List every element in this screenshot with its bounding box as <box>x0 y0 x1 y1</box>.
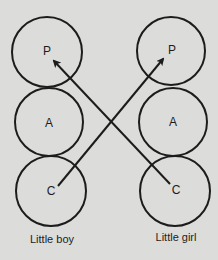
girl-parent-label: P <box>168 43 176 57</box>
boy-caption: Little boy <box>30 233 75 245</box>
girl-caption: Little girl <box>156 231 197 243</box>
little-boy-figure: P A C Little boy <box>12 17 86 245</box>
boy-adult-label: A <box>45 116 53 130</box>
girl-adult-label: A <box>169 115 177 129</box>
transactional-analysis-diagram: P A C Little boy P A C Little girl <box>0 0 218 260</box>
boy-parent-label: P <box>43 44 51 58</box>
little-girl-figure: P A C Little girl <box>137 17 210 243</box>
boy-child-to-girl-parent-arrow <box>58 59 163 186</box>
girl-child-label: C <box>172 183 181 197</box>
boy-child-label: C <box>47 184 56 198</box>
